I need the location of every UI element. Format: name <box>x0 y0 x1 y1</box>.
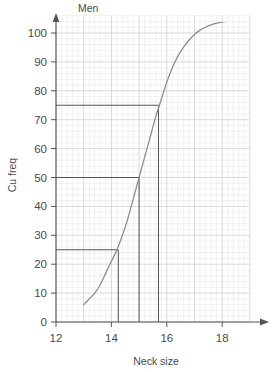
y-tick-label: 100 <box>28 27 47 39</box>
chart-canvas: 0102030405060708090100 12141618 Men Neck… <box>0 0 277 372</box>
y-tick-label: 90 <box>34 56 47 68</box>
x-tick-label: 16 <box>160 332 173 344</box>
construction-lines <box>56 105 158 322</box>
y-tick-label: 40 <box>34 200 47 212</box>
y-tick-label: 50 <box>34 172 47 184</box>
y-axis-ticks <box>51 33 56 322</box>
x-axis <box>56 319 269 326</box>
x-axis-ticks <box>56 322 222 327</box>
x-tick-labels: 12141618 <box>50 332 229 344</box>
y-tick-label: 0 <box>41 316 47 328</box>
y-tick-label: 30 <box>34 229 47 241</box>
x-axis-title: Neck size <box>133 355 179 367</box>
chart-title: Men <box>78 2 99 14</box>
x-tick-label: 14 <box>105 332 118 344</box>
y-tick-labels: 0102030405060708090100 <box>28 27 47 328</box>
y-tick-label: 60 <box>34 143 47 155</box>
cumulative-frequency-chart: 0102030405060708090100 12141618 Men Neck… <box>0 0 277 372</box>
y-tick-label: 80 <box>34 85 47 97</box>
y-tick-label: 70 <box>34 114 47 126</box>
x-tick-label: 18 <box>216 332 229 344</box>
y-tick-label: 20 <box>34 258 47 270</box>
y-tick-label: 10 <box>34 287 47 299</box>
x-tick-label: 12 <box>50 332 63 344</box>
grid-major <box>56 16 250 322</box>
y-axis-title: Cu freq <box>6 158 18 193</box>
